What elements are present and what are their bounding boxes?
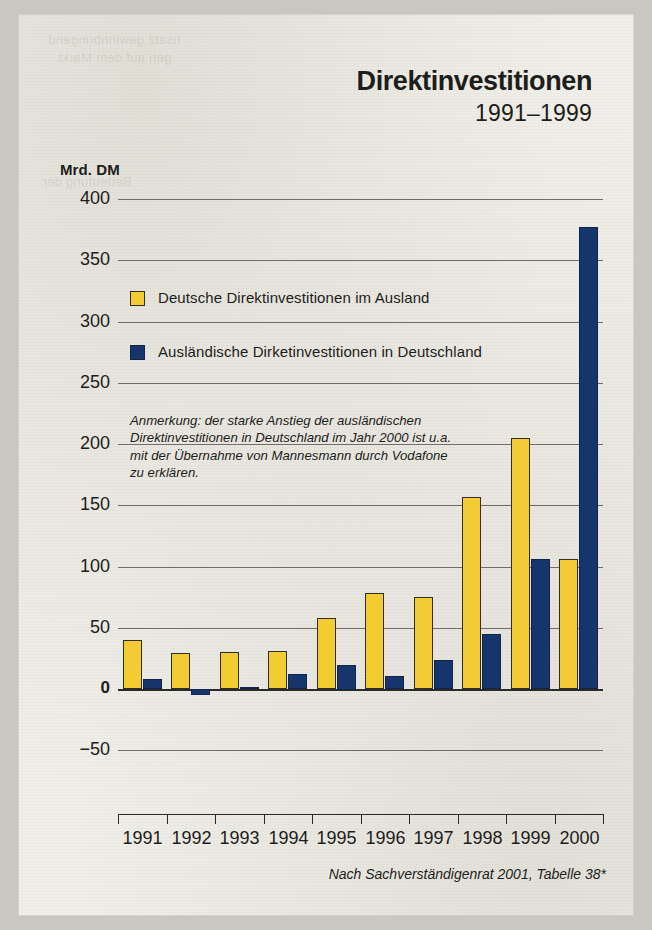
x-axis-label-1997: 1997 [409,828,458,849]
bar-deutsche-1995 [317,618,336,689]
y-axis-tick-0: 0 [56,678,110,698]
y-axis-tick-200: 200 [56,433,110,454]
x-axis-tickmark [458,814,459,824]
y-axis-tick-350: 350 [56,249,110,270]
chart-annotation: Anmerkung: der starke Anstieg der auslän… [130,412,460,482]
bar-deutsche-1994 [268,651,287,689]
x-axis-label-1991: 1991 [118,828,167,849]
x-axis-tickmark [409,814,410,824]
y-axis-tick-50: 50 [56,617,110,638]
y-axis-tick-100: 100 [56,556,110,577]
x-axis-tickmark [167,814,168,824]
bar-deutsche-1996 [365,593,384,689]
bar-deutsche-1998 [462,497,481,689]
legend-label-deutsche: Deutsche Direktinvestitionen im Ausland [158,289,430,306]
x-axis-tickmark [215,814,216,824]
bar-deutsche-1992 [171,653,190,689]
bar-deutsche-1999 [511,438,530,689]
bar-auslaendische-1991 [143,679,162,689]
x-axis-tickmark [555,814,556,824]
gridline-150 [118,505,603,506]
gridline-400 [118,199,603,200]
bar-auslaendische-1998 [482,634,501,689]
y-axis-tick-400: 400 [56,188,110,209]
y-axis-tick-minus50: −50 [56,739,110,760]
bar-deutsche-1997 [414,597,433,689]
gridline-300 [118,322,603,323]
legend-swatch-deutsche [130,291,145,306]
gridline--50 [118,750,603,751]
x-axis-label-1992: 1992 [167,828,216,849]
bar-deutsche-2000 [559,559,578,689]
y-axis-tick-250: 250 [56,372,110,393]
bar-auslaendische-1995 [337,665,356,690]
chart-source-note: Nach Sachverständigenrat 2001, Tabelle 3… [329,866,606,882]
bar-auslaendische-1994 [288,674,307,689]
x-axis-label-1994: 1994 [264,828,313,849]
x-axis-label-1996: 1996 [361,828,410,849]
bar-auslaendische-2000 [579,227,598,689]
x-axis-label-1998: 1998 [458,828,507,849]
x-axis-tickmark [264,814,265,824]
bar-auslaendische-1997 [434,660,453,689]
x-axis-label-1993: 1993 [215,828,264,849]
gridline-350 [118,260,603,261]
gridline-250 [118,383,603,384]
y-axis-tick-300: 300 [56,311,110,332]
bar-auslaendische-1996 [385,676,404,689]
x-axis-label-1999: 1999 [506,828,555,849]
bar-auslaendische-1993 [240,687,259,689]
paper-sheet: nsatz gewinnbringend gen auf dem Markt B… [18,14,634,916]
bar-deutsche-1991 [123,640,142,689]
x-axis-label-2000: 2000 [555,828,604,849]
legend-label-auslaendische: Ausländische Dirketinvestitionen in Deut… [158,343,482,360]
x-axis-label-1995: 1995 [312,828,361,849]
x-axis-tickmark [361,814,362,824]
bar-auslaendische-1999 [531,559,550,689]
x-axis-tickmark [603,814,604,824]
bar-deutsche-1993 [220,652,239,689]
x-axis-tickmark [506,814,507,824]
bar-auslaendische-1992 [191,689,210,695]
x-axis-tickmark [312,814,313,824]
x-axis-tickmark [118,814,119,824]
y-axis-tick-150: 150 [56,494,110,515]
legend-swatch-auslaendische [130,345,145,360]
